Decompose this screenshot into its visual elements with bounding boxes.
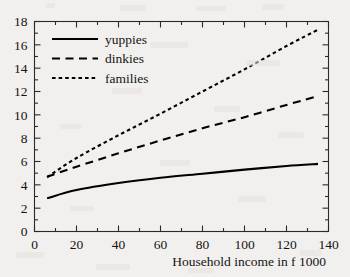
y-tick-label-0: 0 xyxy=(21,224,28,239)
y-tick-label-6: 6 xyxy=(21,154,28,169)
x-tick-label-60: 60 xyxy=(154,237,168,252)
y-tick-label-10: 10 xyxy=(14,108,28,123)
y-tick-label-4: 4 xyxy=(21,178,28,193)
y-tick-label-16: 16 xyxy=(14,38,28,53)
line-chart: 020406080100120140 024681012141618 yuppi… xyxy=(0,0,350,277)
x-tick-label-20: 20 xyxy=(70,237,84,252)
plot-border xyxy=(35,22,329,232)
y-axis-tick-labels: 024681012141618 xyxy=(14,14,28,239)
x-tick-label-0: 0 xyxy=(31,237,38,252)
x-tick-label-120: 120 xyxy=(276,237,297,252)
x-tick-label-140: 140 xyxy=(318,237,339,252)
y-axis-ticks xyxy=(35,22,329,232)
data-series-group xyxy=(47,30,318,199)
chart-figure: 020406080100120140 024681012141618 yuppi… xyxy=(0,0,350,277)
y-tick-label-18: 18 xyxy=(14,14,28,29)
x-axis-ticks xyxy=(35,22,329,232)
y-tick-label-8: 8 xyxy=(21,131,28,146)
legend-label-dinkies: dinkies xyxy=(105,51,144,66)
legend-label-yuppies: yuppies xyxy=(105,32,147,47)
x-tick-label-40: 40 xyxy=(112,237,126,252)
chart-legend: yuppiesdinkiesfamilies xyxy=(52,32,149,86)
legend-label-families: families xyxy=(105,71,149,86)
x-tick-label-80: 80 xyxy=(196,237,210,252)
x-axis-title: Household income in f 1000 xyxy=(172,254,326,269)
plot-frame xyxy=(35,22,329,232)
y-tick-label-2: 2 xyxy=(21,201,28,216)
y-tick-label-14: 14 xyxy=(14,61,28,76)
series-line-families xyxy=(47,30,318,178)
series-line-yuppies xyxy=(47,164,318,198)
series-line-dinkies xyxy=(47,96,318,177)
x-axis-tick-labels: 020406080100120140 xyxy=(31,237,339,252)
x-tick-label-100: 100 xyxy=(234,237,255,252)
y-tick-label-12: 12 xyxy=(14,84,28,99)
